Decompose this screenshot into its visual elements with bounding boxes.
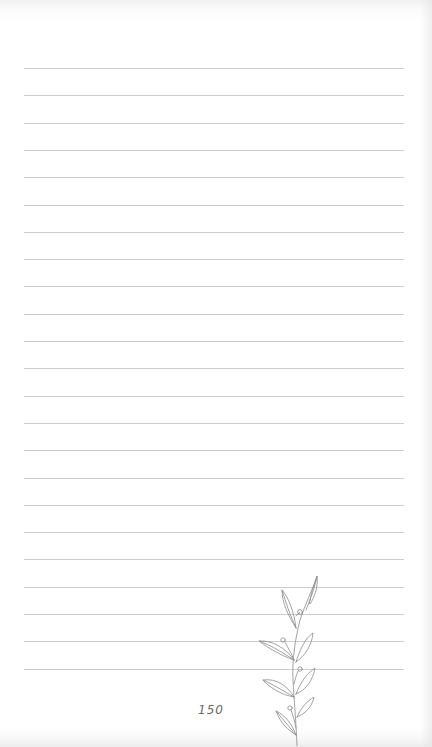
ruled-line bbox=[24, 68, 404, 69]
notebook-page: 150 bbox=[0, 0, 432, 747]
ruled-line bbox=[24, 232, 404, 233]
ruled-line bbox=[24, 559, 404, 560]
ruled-line bbox=[24, 423, 404, 424]
ruled-line bbox=[24, 532, 404, 533]
ruled-line bbox=[24, 505, 404, 506]
ruled-line bbox=[24, 396, 404, 397]
ruled-line bbox=[24, 587, 404, 588]
ruled-line bbox=[24, 150, 404, 151]
ruled-line bbox=[24, 314, 404, 315]
leaf-sprig-icon bbox=[250, 570, 330, 747]
ruled-line bbox=[24, 641, 404, 642]
ruled-line bbox=[24, 286, 404, 287]
ruled-line bbox=[24, 450, 404, 451]
ruled-line bbox=[24, 95, 404, 96]
ruled-line bbox=[24, 205, 404, 206]
ruled-line bbox=[24, 478, 404, 479]
ruled-line bbox=[24, 177, 404, 178]
page-number: 150 bbox=[198, 703, 230, 717]
ruled-line bbox=[24, 259, 404, 260]
ruled-line bbox=[24, 123, 404, 124]
ruled-line bbox=[24, 341, 404, 342]
ruled-line bbox=[24, 368, 404, 369]
ruled-line bbox=[24, 669, 404, 670]
ruled-line bbox=[24, 614, 404, 615]
